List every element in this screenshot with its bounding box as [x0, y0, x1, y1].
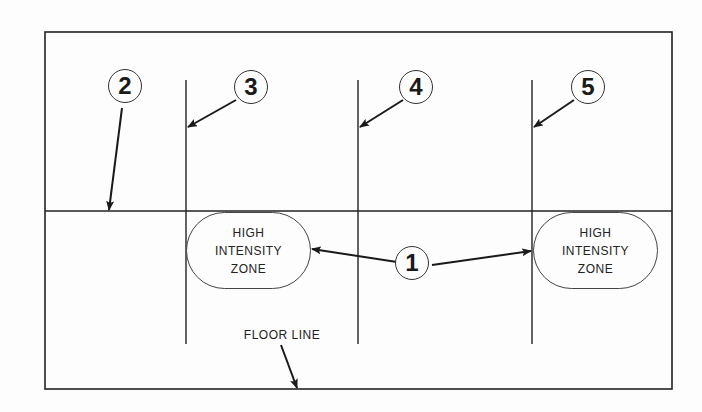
arrow-1-right — [432, 251, 531, 265]
zone-text: INTENSITY — [562, 242, 629, 260]
callout-2: 2 — [108, 69, 142, 103]
callout-1: 1 — [395, 246, 429, 280]
diagram-canvas: HIGH INTENSITY ZONE HIGH INTENSITY ZONE … — [0, 0, 702, 412]
callout-5: 5 — [571, 70, 605, 104]
arrow-2 — [109, 108, 122, 210]
floor-line-label: FLOOR LINE — [212, 326, 352, 344]
high-intensity-zone-right: HIGH INTENSITY ZONE — [533, 212, 658, 289]
callout-3: 3 — [234, 70, 268, 104]
zone-text: HIGH — [215, 224, 282, 242]
zone-text: ZONE — [562, 260, 629, 278]
callout-4: 4 — [399, 70, 433, 104]
zone-text: INTENSITY — [215, 242, 282, 260]
arrow-floor — [281, 345, 297, 388]
arrow-3 — [188, 100, 236, 127]
diagram-lines — [0, 0, 702, 412]
high-intensity-zone-left: HIGH INTENSITY ZONE — [186, 212, 311, 289]
arrow-1-left — [312, 249, 397, 262]
zone-text: HIGH — [562, 224, 629, 242]
arrow-4 — [360, 100, 403, 127]
zone-text: ZONE — [215, 260, 282, 278]
arrow-5 — [534, 100, 574, 127]
